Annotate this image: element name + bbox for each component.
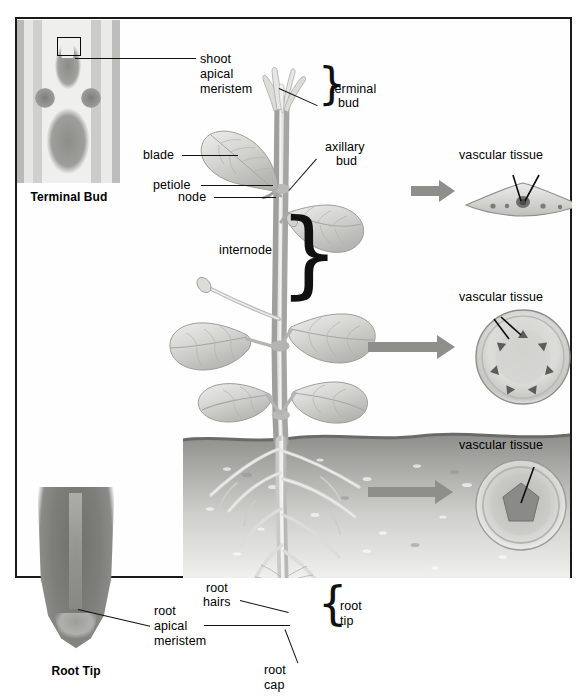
inset-caption-root-tip: Root Tip (26, 664, 126, 679)
label-shoot-apical-meristem-line1: shoot (200, 52, 231, 67)
label-root-tip-line1: root (340, 599, 362, 614)
brace-internode: } (279, 206, 339, 301)
inset-caption-terminal-bud: Terminal Bud (18, 190, 120, 205)
label-root-hairs-line2: hairs (203, 595, 231, 610)
label-terminal-bud-line1: terminal (331, 82, 376, 97)
label-shoot-apical-meristem-line2: apical (200, 67, 233, 82)
label-axillary-bud-line1: axillary (325, 140, 365, 155)
label-vascular-tissue-stem: vascular tissue (459, 290, 543, 305)
label-root-apical-meristem-line1: root (154, 604, 176, 619)
label-vascular-tissue-root: vascular tissue (459, 438, 543, 453)
label-node: node (178, 190, 206, 205)
shoot-apical-meristem-callout-box (57, 37, 81, 56)
leader-root-cap (285, 629, 299, 663)
label-axillary-bud-line2: bud (336, 154, 357, 169)
label-root-tip-line2: tip (340, 614, 354, 629)
label-root-apical-meristem-line3: meristem (154, 634, 206, 649)
leader-root-hairs (240, 600, 289, 613)
figure-canvas: Terminal Bud Root Tip shoot apical meris… (0, 0, 587, 696)
leader-petiole (201, 185, 273, 186)
label-root-hairs-line1: root (206, 581, 228, 596)
label-blade: blade (143, 148, 174, 163)
label-terminal-bud-line2: bud (338, 96, 359, 111)
leader-root-apical-meristem-to-plant (204, 625, 290, 626)
label-root-cap-line1: root (264, 663, 286, 678)
label-vascular-tissue-leaf: vascular tissue (459, 148, 543, 163)
label-internode: internode (219, 243, 272, 258)
leader-blade (182, 155, 238, 156)
leader-node (214, 197, 276, 198)
label-root-apical-meristem-line2: apical (154, 619, 187, 634)
label-root-cap-line2: cap (264, 678, 284, 693)
leader-shoot-apical-meristem-to-inset (75, 58, 196, 59)
root-tip-micrograph (35, 487, 117, 650)
label-shoot-apical-meristem-line3: meristem (200, 82, 252, 97)
